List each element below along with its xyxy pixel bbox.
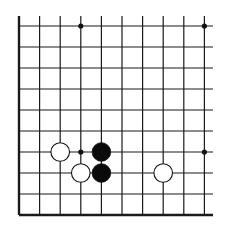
white-stone-icon[interactable]: [154, 164, 173, 183]
stones-layer[interactable]: [51, 143, 173, 183]
star-point-icon: [202, 23, 207, 28]
black-stone-icon[interactable]: [92, 164, 111, 183]
star-point-icon: [78, 149, 83, 154]
star-point-icon: [78, 23, 83, 28]
board-grid: [19, 16, 213, 215]
star-point-icon: [202, 149, 207, 154]
go-board[interactable]: [0, 0, 225, 229]
black-stone-icon[interactable]: [92, 143, 111, 162]
white-stone-icon[interactable]: [72, 164, 91, 183]
white-stone-icon[interactable]: [51, 143, 70, 162]
